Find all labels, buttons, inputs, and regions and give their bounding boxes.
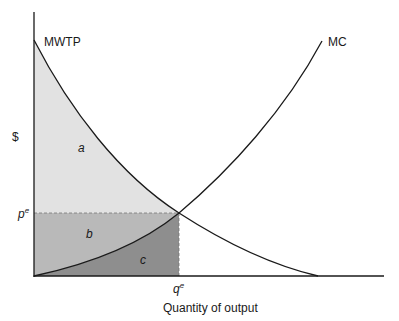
x-axis-label: Quantity of output	[163, 301, 258, 315]
mc-label: MC	[328, 35, 347, 49]
y-axis-label: $	[12, 130, 19, 144]
region-b-label: b	[86, 227, 93, 241]
region-c-label: c	[140, 253, 146, 267]
region-a-fill	[34, 40, 179, 213]
qe-sup: e	[180, 281, 185, 290]
qe-label: qe	[173, 281, 185, 296]
region-a-label: a	[78, 141, 85, 155]
pe-label: pe	[17, 206, 30, 221]
pe-sup: e	[25, 206, 30, 215]
mwtp-label: MWTP	[44, 35, 81, 49]
welfare-diagram: MWTP MC $ a b c pe qe Quantity of output	[0, 0, 399, 321]
